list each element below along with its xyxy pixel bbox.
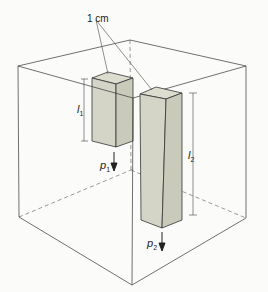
cube-visible-edges	[18, 40, 246, 285]
label-p2: p2	[147, 238, 157, 251]
label-l1: l1	[77, 104, 83, 117]
column-1	[92, 72, 133, 147]
label-p1: p1	[100, 160, 110, 173]
width-label: 1 cm	[87, 13, 109, 24]
column-2	[140, 87, 182, 228]
label-l2: l2	[188, 150, 194, 163]
p1-arrow	[111, 152, 117, 171]
cube-diagram	[0, 0, 268, 292]
p2-arrow	[159, 232, 165, 251]
diagram: 1 cm l1 l2 p1 p2	[0, 0, 268, 292]
